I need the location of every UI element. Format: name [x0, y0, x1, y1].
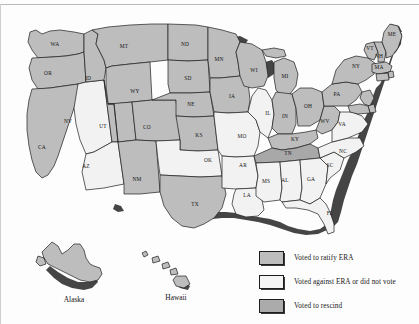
- state-label-ID: ID: [85, 75, 91, 81]
- legend-swatch-rescind: [259, 299, 285, 314]
- legend-label-ratify: Voted to ratify ERA: [294, 254, 353, 262]
- legend-item-against: Voted against ERA or did not vote: [259, 274, 417, 290]
- state-label-NC: NC: [339, 148, 347, 154]
- state-label-AL: AL: [281, 177, 289, 183]
- state-label-LA: LA: [243, 192, 251, 198]
- state-label-NE: NE: [187, 101, 195, 107]
- state-NY: [332, 56, 376, 84]
- legend-label-against: Voted against ERA or did not vote: [294, 278, 396, 286]
- state-label-NH: NH: [375, 53, 383, 59]
- state-label-MO: MO: [237, 133, 246, 139]
- legend-label-rescind: Voted to rescind: [294, 302, 342, 310]
- inset-label-alaska: Alaska: [64, 295, 85, 304]
- state-label-ND: ND: [181, 41, 189, 47]
- state-label-GA: GA: [307, 176, 315, 182]
- legend-swatch-fill: [259, 275, 284, 289]
- state-label-WV: WV: [320, 118, 329, 124]
- state-label-PA: PA: [334, 91, 341, 97]
- state-label-CA: CA: [38, 144, 46, 150]
- state-label-MI: MI: [282, 73, 289, 79]
- state-label-VT: VT: [366, 45, 374, 51]
- state-label-AZ: AZ: [82, 163, 90, 169]
- state-label-KS: KS: [195, 132, 202, 138]
- inset-alaska: Alaska: [36, 242, 102, 304]
- state-label-SC: SC: [327, 162, 334, 168]
- state-WY: [106, 62, 152, 104]
- state-label-NV: NV: [64, 118, 72, 124]
- state-label-UT: UT: [99, 123, 107, 129]
- state-label-OK: OK: [204, 157, 212, 163]
- state-label-TN: TN: [284, 150, 292, 156]
- state-PA: [322, 82, 362, 106]
- legend-swatch-fill: [259, 251, 284, 265]
- inset-label-hawaii: Hawaii: [165, 293, 186, 302]
- state-label-IL: IL: [265, 110, 271, 116]
- state-CA: [27, 84, 80, 178]
- era-map-figure: Alaska Hawaii WAORCANVIDMTWYUTAZCONMNDSD…: [0, 0, 419, 324]
- legend-swatch-against: [259, 275, 285, 290]
- state-AK: [36, 242, 102, 282]
- state-CO: [132, 100, 180, 141]
- state-label-KY: KY: [291, 136, 299, 142]
- legend-item-ratify: Voted to ratify ERA: [259, 250, 417, 266]
- inset-hawaii: Hawaii: [142, 251, 190, 302]
- state-label-MN: MN: [214, 56, 223, 62]
- state-label-SD: SD: [184, 75, 191, 81]
- state-label-MA: MA: [374, 64, 383, 70]
- state-AR: [222, 156, 258, 189]
- state-label-AR: AR: [239, 162, 247, 168]
- state-label-WY: WY: [130, 88, 139, 94]
- state-label-FL: FL: [327, 210, 334, 216]
- state-label-NY: NY: [352, 63, 360, 69]
- state-label-IN: IN: [282, 113, 288, 119]
- state-CT: [376, 73, 389, 81]
- state-OR: [29, 52, 86, 89]
- state-label-MT: MT: [120, 43, 129, 49]
- state-label-OH: OH: [304, 103, 312, 109]
- state-label-VA: VA: [338, 121, 346, 127]
- map-legend: Voted to ratify ERA Voted against ERA or…: [259, 250, 417, 322]
- state-HI: [142, 251, 190, 288]
- state-label-IA: IA: [229, 93, 235, 99]
- legend-swatch-fill: [259, 299, 284, 313]
- state-label-NM: NM: [132, 176, 141, 182]
- legend-item-rescind: Voted to rescind: [259, 298, 417, 314]
- state-NM: [118, 140, 160, 194]
- state-label-MS: MS: [262, 178, 270, 184]
- state-MD: [348, 104, 370, 114]
- state-label-ME: ME: [388, 31, 397, 37]
- state-label-CO: CO: [143, 124, 151, 130]
- state-label-OR: OR: [44, 70, 52, 76]
- state-label-WI: WI: [250, 67, 257, 73]
- legend-swatch-ratify: [259, 251, 285, 266]
- state-label-WA: WA: [51, 41, 60, 47]
- state-label-TX: TX: [191, 201, 199, 207]
- state-MN: [208, 27, 240, 78]
